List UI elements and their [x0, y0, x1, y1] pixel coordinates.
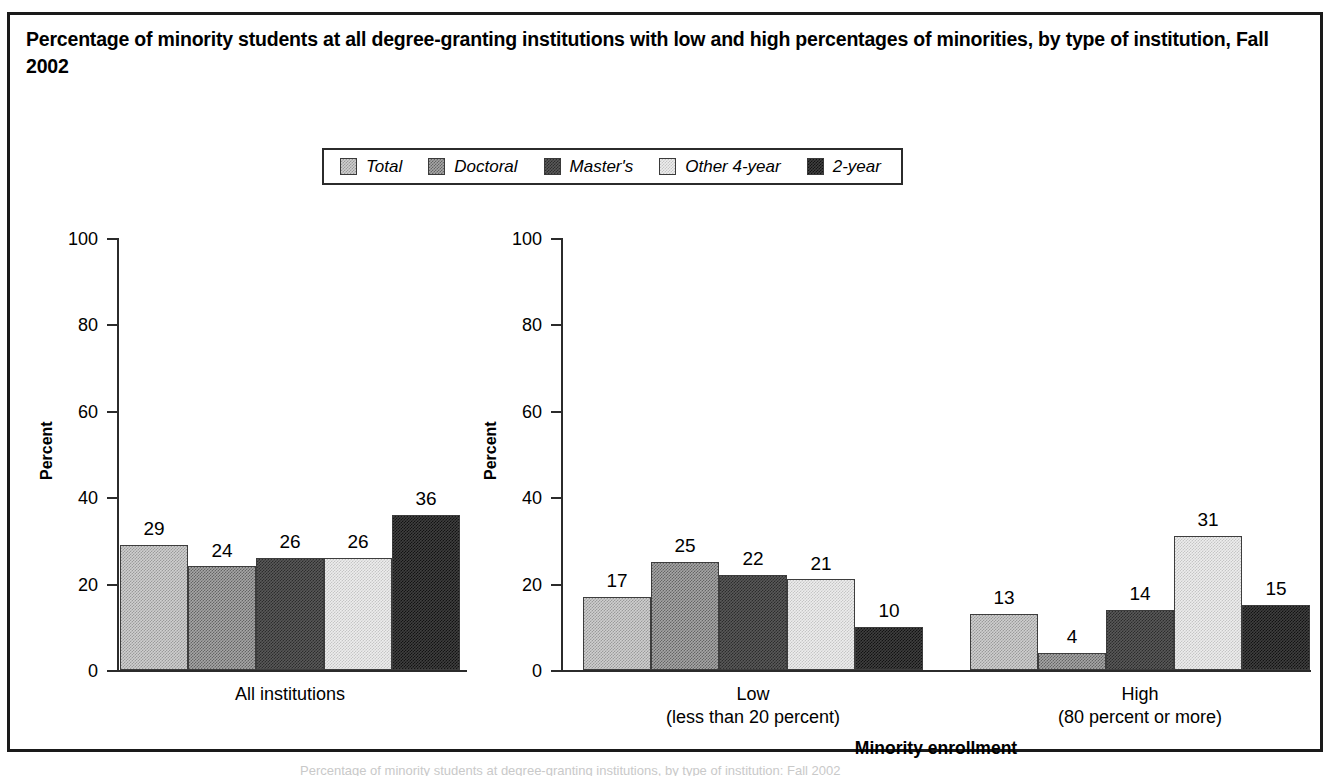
bar-high-doctoral[interactable]: [1038, 653, 1106, 670]
bar-low-doctoral[interactable]: [651, 562, 719, 670]
bar-high-2-year[interactable]: [1242, 605, 1310, 670]
figure-caption-partial: Percentage of minority students at degre…: [300, 763, 1060, 776]
right-group-label-high-main: High: [1020, 683, 1260, 706]
bar-value-low-other-4-year: 21: [791, 554, 851, 573]
bar-low-other-4-year[interactable]: [787, 579, 855, 670]
chart-panel-minority-enrollment: 100 80 60 40 20 0 Percent 17 25 22 21 10…: [0, 0, 1334, 776]
right-tick-label-0: 0: [496, 662, 542, 680]
right-tick-60: [551, 411, 562, 413]
bar-value-high-masters: 14: [1110, 584, 1170, 603]
right-group-label-low-main: Low: [633, 683, 873, 706]
bar-high-masters[interactable]: [1106, 610, 1174, 671]
bar-value-low-2-year: 10: [859, 601, 919, 620]
bar-value-low-masters: 22: [723, 549, 783, 568]
right-y-axis-title: Percent: [482, 421, 500, 480]
right-group-label-high: High (80 percent or more): [1020, 683, 1260, 729]
bar-low-masters[interactable]: [719, 575, 787, 670]
bar-value-low-total: 17: [587, 571, 647, 590]
right-y-axis: [561, 238, 563, 672]
bar-value-high-doctoral: 4: [1042, 627, 1102, 646]
right-tick-20: [551, 584, 562, 586]
right-tick-label-20: 20: [496, 576, 542, 594]
right-group-label-low: Low (less than 20 percent): [633, 683, 873, 729]
right-tick-label-60: 60: [496, 403, 542, 421]
right-group-label-low-sub: (less than 20 percent): [633, 706, 873, 729]
right-x-axis: [561, 670, 1311, 672]
figure-panel: Percentage of minority students at all d…: [0, 0, 1334, 776]
right-tick-label-100: 100: [496, 230, 542, 248]
right-tick-100: [551, 238, 562, 240]
right-tick-80: [551, 324, 562, 326]
right-tick-label-40: 40: [496, 489, 542, 507]
bar-low-total[interactable]: [583, 597, 651, 670]
bar-value-high-total: 13: [974, 588, 1034, 607]
bar-high-other-4-year[interactable]: [1174, 536, 1242, 670]
right-group-label-high-sub: (80 percent or more): [1020, 706, 1260, 729]
right-tick-0: [551, 670, 562, 672]
bar-high-total[interactable]: [970, 614, 1038, 670]
bar-value-high-other-4-year: 31: [1178, 510, 1238, 529]
bar-value-low-doctoral: 25: [655, 536, 715, 555]
bar-low-2-year[interactable]: [855, 627, 923, 670]
bar-value-high-2-year: 15: [1246, 579, 1306, 598]
right-tick-label-80: 80: [496, 316, 542, 334]
right-tick-40: [551, 497, 562, 499]
x-axis-title: Minority enrollment: [736, 738, 1136, 759]
